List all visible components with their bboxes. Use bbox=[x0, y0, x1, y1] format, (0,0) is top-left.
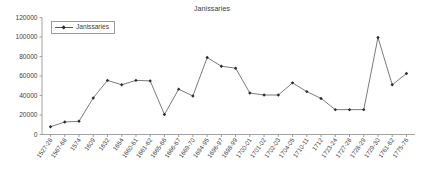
data-point bbox=[63, 120, 66, 123]
y-axis-tick-label: 120000 bbox=[15, 14, 37, 21]
legend-label: Janissaries bbox=[76, 24, 109, 31]
y-axis-tick-label: 80000 bbox=[19, 53, 38, 60]
data-point bbox=[163, 113, 166, 116]
y-axis: 020000400006000080000100000120000 bbox=[15, 14, 42, 138]
data-point bbox=[262, 93, 265, 96]
x-axis-tick-label: 1710-11 bbox=[291, 136, 310, 159]
x-axis-tick-label: 1574 bbox=[68, 136, 82, 152]
y-axis-tick-label: 60000 bbox=[19, 72, 38, 79]
x-axis: 1527-281567-6815741609163216541660-61166… bbox=[35, 135, 415, 160]
x-axis-tick-label: 1609 bbox=[83, 136, 97, 152]
chart-legend: Janissaries bbox=[51, 21, 115, 34]
data-point bbox=[248, 91, 251, 94]
data-point bbox=[362, 108, 365, 111]
data-point bbox=[376, 36, 379, 39]
data-point bbox=[348, 108, 351, 111]
data-point bbox=[120, 83, 123, 86]
data-point bbox=[134, 79, 137, 82]
data-point bbox=[177, 87, 180, 90]
y-axis-tick-label: 40000 bbox=[19, 92, 38, 99]
data-series-janissaries bbox=[49, 36, 408, 129]
data-point bbox=[49, 125, 52, 128]
y-axis-tick-label: 0 bbox=[34, 131, 38, 138]
data-point bbox=[234, 67, 237, 70]
janissaries-chart: Janissaries 0200004000060000800001000001… bbox=[0, 0, 424, 173]
y-axis-tick-label: 20000 bbox=[19, 111, 38, 118]
data-point bbox=[191, 94, 194, 97]
legend-marker-icon bbox=[55, 25, 73, 31]
y-axis-tick-label: 100000 bbox=[15, 33, 37, 40]
x-axis-tick-label: 1654 bbox=[111, 136, 125, 152]
x-axis-tick-label: 1632 bbox=[97, 136, 111, 152]
x-axis-tick-label: 1712 bbox=[310, 136, 324, 152]
data-point bbox=[148, 79, 151, 82]
